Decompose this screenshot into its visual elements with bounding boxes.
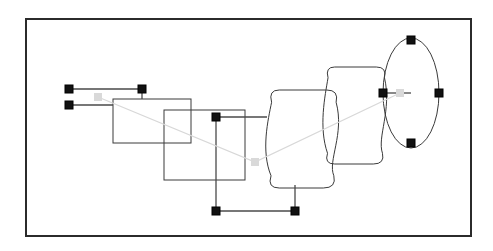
canvas-root [0,0,493,251]
selection-handle-handle-7[interactable] [379,89,387,97]
center-marker-marker-middle[interactable] [251,158,259,166]
selection-handle-handle-9[interactable] [435,89,443,97]
selection-handle-handle-4[interactable] [212,113,220,121]
selection-handle-handle-8[interactable] [407,36,415,44]
selection-handle-handle-3[interactable] [65,101,73,109]
center-marker-marker-right[interactable] [396,89,404,97]
selection-handle-handle-6[interactable] [291,207,299,215]
center-marker-marker-left[interactable] [94,93,102,101]
canvas-frame [26,19,471,236]
selection-handle-handle-5[interactable] [212,207,220,215]
selection-handle-handle-2[interactable] [138,85,146,93]
diagram-canvas[interactable] [0,0,493,251]
selection-handle-handle-1[interactable] [65,85,73,93]
selection-handle-handle-10[interactable] [407,139,415,147]
